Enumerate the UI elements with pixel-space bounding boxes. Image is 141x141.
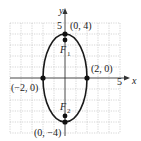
x-axis-arrow-icon	[124, 76, 130, 81]
top-vertex-point	[62, 31, 67, 36]
bottom-vertex-point	[62, 119, 67, 124]
x-tick-label: 5	[117, 76, 122, 87]
y-tick-label: 5	[57, 20, 62, 31]
right-covertex-label: (2, 0)	[91, 63, 113, 75]
y-axis-label: y	[58, 5, 64, 16]
focus-f1-point	[63, 38, 68, 43]
left-covertex-label: (−2, 0)	[11, 82, 38, 94]
x-axis-label: x	[131, 75, 137, 86]
top-vertex-label: (0, 4)	[70, 20, 92, 32]
svg-text:1: 1	[67, 50, 71, 58]
svg-text:2: 2	[67, 107, 71, 115]
left-covertex-point	[40, 75, 45, 80]
svg-text:F: F	[59, 44, 67, 55]
right-covertex-point	[84, 75, 89, 80]
svg-text:F: F	[59, 101, 67, 112]
ellipse-diagram: y 5 x 5 (0, 4) (0, −4) (2, 0) (−2, 0) F …	[0, 0, 141, 141]
bottom-vertex-label: (0, −4)	[34, 127, 61, 139]
